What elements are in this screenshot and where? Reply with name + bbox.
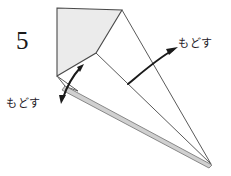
origami-diagram-svg	[0, 0, 231, 176]
inner-vertex-to-tip-edge	[96, 53, 211, 164]
step-number: 5	[16, 28, 29, 53]
annotation-label-left: もどす	[6, 98, 41, 109]
origami-step-figure: 5 もどす もどす	[0, 0, 231, 176]
curved-arrow-right	[128, 50, 173, 84]
curved-arrow-left-head	[59, 95, 66, 104]
shaded-panel	[57, 8, 122, 76]
annotation-label-right: もどす	[178, 38, 213, 49]
